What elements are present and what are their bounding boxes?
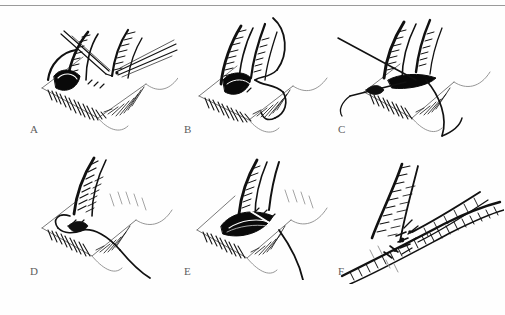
panel-f-illustration	[340, 154, 504, 284]
panel-label-b: B	[184, 124, 192, 135]
panel-a	[28, 14, 178, 134]
panel-a-illustration	[28, 14, 178, 134]
panel-e-illustration	[193, 154, 338, 280]
panel-label-d: D	[30, 266, 38, 277]
panel-label-a: A	[30, 124, 38, 135]
panel-label-e: E	[184, 266, 191, 277]
panel-c-illustration	[336, 14, 502, 138]
panel-label-c: C	[338, 124, 346, 135]
panel-f	[340, 154, 504, 284]
panel-c	[336, 14, 502, 138]
scan-border-line	[0, 5, 505, 6]
panel-label-f: F	[338, 266, 344, 277]
panel-d-illustration	[28, 154, 178, 282]
panel-e	[193, 154, 338, 280]
figure-plate: A	[0, 0, 505, 315]
panel-d	[28, 154, 178, 282]
panel-b-illustration	[193, 14, 333, 136]
panel-b	[193, 14, 333, 136]
